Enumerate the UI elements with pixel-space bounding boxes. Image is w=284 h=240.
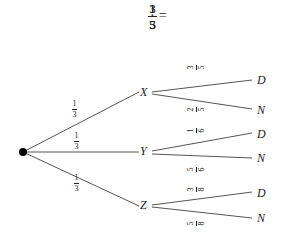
branch-root-z <box>23 152 139 206</box>
denominator: 3 <box>73 111 77 119</box>
denominator: 6 <box>198 168 206 172</box>
denominator: 5 <box>198 66 206 70</box>
branch-y-n <box>152 154 252 158</box>
prob-z-d: 3 8 <box>187 187 206 192</box>
numerator: 1 <box>75 132 79 140</box>
numerator: 3 <box>187 188 195 192</box>
numerator: 5 <box>187 168 195 172</box>
numerator: 3 <box>187 66 195 70</box>
leaf-y-n: N <box>257 151 265 166</box>
prob-x-d: 3 5 <box>187 65 206 70</box>
prob-y-d: 1 6 <box>187 128 206 133</box>
prob-z-n: 5 8 <box>187 221 206 226</box>
denominator: 6 <box>198 129 206 133</box>
leaf-x-n: N <box>257 103 265 118</box>
branch-y-d <box>152 133 252 151</box>
node-z: Z <box>140 198 147 213</box>
prob-y-n: 5 6 <box>187 167 206 172</box>
denominator: 8 <box>198 222 206 226</box>
branch-root-x <box>23 92 139 152</box>
numerator: 1 <box>75 174 79 182</box>
leaf-x-d: D <box>257 73 266 88</box>
branch-z-n <box>152 207 252 218</box>
denominator: 8 <box>198 188 206 192</box>
numerator: 1 <box>187 129 195 133</box>
prob-root-y: 1 3 <box>74 132 79 151</box>
node-y: Y <box>140 144 147 159</box>
denominator: 3 <box>75 143 79 151</box>
numerator: 2 <box>187 108 195 112</box>
denominator: 3 <box>75 185 79 193</box>
prob-x-n: 2 5 <box>187 107 206 112</box>
denominator: 5 <box>198 108 206 112</box>
leaf-z-d: D <box>257 186 266 201</box>
prob-root-x: 1 3 <box>72 100 77 119</box>
numerator: 5 <box>187 222 195 226</box>
root-dot <box>19 148 27 156</box>
prob-root-z: 1 3 <box>74 174 79 193</box>
branch-z-d <box>152 192 252 205</box>
numerator: 1 <box>73 100 77 108</box>
branch-x-d <box>152 80 252 92</box>
leaf-y-d: D <box>257 127 266 142</box>
leaf-z-n: N <box>257 211 265 226</box>
node-x: X <box>140 85 147 100</box>
